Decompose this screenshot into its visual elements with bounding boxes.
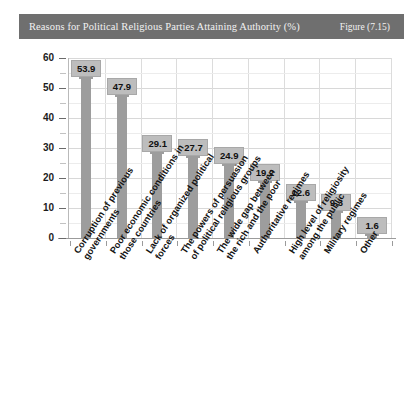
- bar: [81, 79, 91, 238]
- x-axis-tick: [177, 241, 178, 246]
- chart-title: Reasons for Political Religious Parties …: [29, 21, 300, 32]
- y-axis-tick-major: [59, 118, 66, 119]
- y-axis-tick-major: [59, 178, 66, 179]
- bar-value-label: 29.1: [142, 135, 172, 152]
- y-axis-tick-major: [59, 148, 66, 149]
- figure-number-label: Figure (7.15): [340, 22, 394, 32]
- y-axis-tick-label: 0: [24, 232, 54, 243]
- gridline-horizontal: [69, 58, 391, 59]
- y-axis-tick-major: [59, 208, 66, 209]
- y-axis-tick-label: 30: [24, 142, 54, 153]
- bar-value-label: 47.9: [107, 78, 137, 95]
- y-axis-tick-label: 40: [24, 112, 54, 123]
- y-axis-tick-label: 10: [24, 202, 54, 213]
- y-axis-tick-major: [59, 88, 66, 89]
- gridline-vertical: [391, 58, 392, 238]
- x-axis-tick: [249, 241, 250, 246]
- y-axis-tick-label: 50: [24, 82, 54, 93]
- chart-title-bar: Reasons for Political Religious Parties …: [19, 14, 404, 39]
- y-axis-tick-minor: [60, 103, 66, 104]
- y-axis-tick-label: 60: [24, 52, 54, 63]
- figure-container: Reasons for Political Religious Parties …: [0, 0, 419, 403]
- x-axis-tick: [356, 241, 357, 246]
- y-axis-tick-minor: [60, 73, 66, 74]
- x-axis-tick: [70, 241, 71, 246]
- y-axis-tick-minor: [60, 223, 66, 224]
- y-axis-tick-minor: [60, 133, 66, 134]
- x-axis-tick: [320, 241, 321, 246]
- bar-value-label: 53.9: [71, 60, 101, 77]
- x-axis-tick: [142, 241, 143, 246]
- x-axis-tick: [392, 241, 393, 246]
- y-axis-tick-label: 20: [24, 172, 54, 183]
- x-axis-tick: [106, 241, 107, 246]
- y-axis-tick-minor: [60, 193, 66, 194]
- x-axis-tick: [213, 241, 214, 246]
- y-axis-tick-major: [59, 58, 66, 59]
- y-axis-tick-minor: [60, 163, 66, 164]
- y-axis-tick-major: [59, 238, 66, 239]
- x-axis-tick: [285, 241, 286, 246]
- gridline-horizontal-minor: [69, 73, 391, 74]
